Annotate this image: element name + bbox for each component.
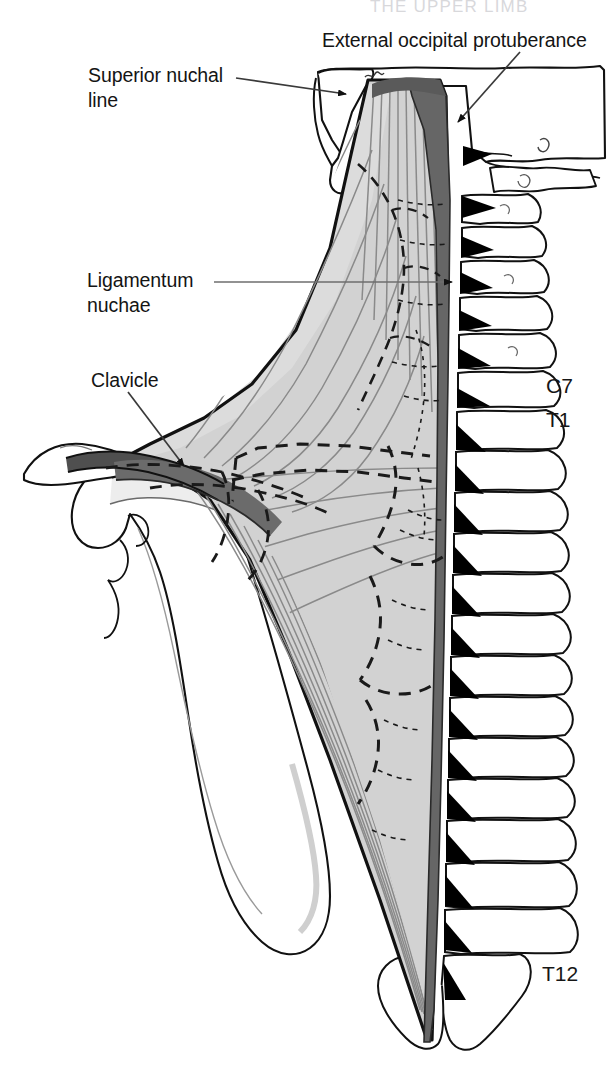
- superior-nuchal-line-1: Superior nuchal: [88, 64, 223, 86]
- page-header-strip: THE UPPER LIMB: [370, 0, 529, 17]
- label-superior-nuchal-line: Superior nuchalline: [88, 63, 223, 113]
- anatomical-figure-trapezius: THE UPPER LIMB External occipital protub…: [0, 0, 615, 1085]
- ligamentum-nuchae-1: Ligamentum: [87, 269, 193, 291]
- label-vertebra-t12: T12: [542, 962, 578, 986]
- cervical-vertebrae: [458, 194, 560, 408]
- label-vertebra-c7: C7: [546, 374, 573, 398]
- label-ligamentum-nuchae: Ligamentumnuchae: [87, 268, 193, 318]
- label-external-occipital-protuberance: External occipital protuberance: [322, 28, 587, 53]
- ligamentum-nuchae-2: nuchae: [87, 294, 150, 316]
- superior-nuchal-line-2: line: [88, 89, 118, 111]
- label-vertebra-t1: T1: [546, 408, 571, 432]
- trapezius-illustration-svg: [0, 0, 615, 1085]
- label-clavicle: Clavicle: [91, 368, 158, 393]
